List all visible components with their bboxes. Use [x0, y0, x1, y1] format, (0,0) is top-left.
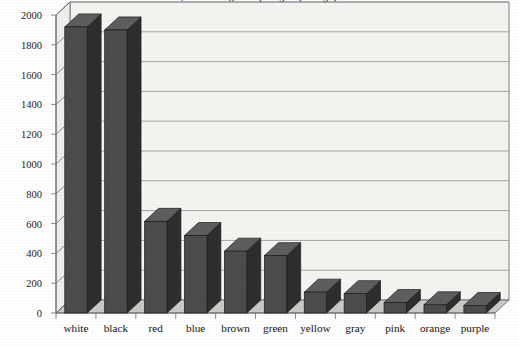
chart-page: (title cut off at top edge of image) 020… — [0, 0, 519, 346]
x-axis-tick-label: yellow — [300, 322, 330, 334]
x-axis-tick-label: gray — [345, 322, 365, 334]
x-axis-tick-label: brown — [221, 322, 250, 334]
x-axis-tick-label: black — [104, 322, 128, 334]
x-axis-tick-label: pink — [385, 322, 405, 334]
x-axis-tick-label: purple — [461, 322, 490, 334]
x-axis: whiteblackredbluebrowngreenyellowgraypin… — [0, 0, 519, 346]
x-axis-tick-label: blue — [186, 322, 205, 334]
x-axis-tick-label: green — [263, 322, 288, 334]
x-axis-tick-label: red — [149, 322, 163, 334]
x-axis-tick-label: white — [64, 322, 89, 334]
x-axis-tick-label: orange — [420, 322, 450, 334]
